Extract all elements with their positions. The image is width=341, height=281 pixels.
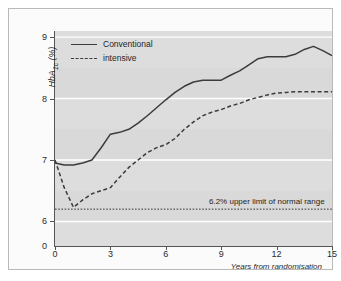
y-tick-label: 7	[42, 155, 47, 165]
x-tick-label: 0	[52, 249, 57, 259]
x-tick-label: 15	[327, 249, 337, 259]
x-tick-label: 3	[108, 249, 113, 259]
legend-swatch-dashed	[71, 54, 97, 62]
x-axis	[54, 246, 333, 247]
legend-item-intensive: intensive	[71, 51, 153, 65]
legend-swatch-solid	[71, 40, 97, 48]
x-tick-label: 9	[219, 249, 224, 259]
x-tick-label: 12	[272, 249, 282, 259]
y-origin-label: 0	[42, 241, 47, 251]
legend-label-conventional: Conventional	[103, 39, 153, 49]
y-axis-title: HbA1c (%)	[47, 19, 59, 115]
legend-item-conventional: Conventional	[71, 37, 153, 51]
legend-label-intensive: intensive	[103, 53, 137, 63]
y-tick	[50, 221, 54, 222]
x-axis-title: Years from randomisation	[231, 262, 322, 271]
y-tick	[50, 160, 54, 161]
figure: 6.2% upper limit of normal range 67890 0…	[0, 0, 341, 281]
figure-frame: 6.2% upper limit of normal range 67890 0…	[8, 8, 333, 270]
reference-line-label: 6.2% upper limit of normal range	[209, 197, 325, 206]
y-tick-label: 6	[42, 216, 47, 226]
x-tick-label: 6	[163, 249, 168, 259]
legend: Conventional intensive	[71, 37, 153, 65]
